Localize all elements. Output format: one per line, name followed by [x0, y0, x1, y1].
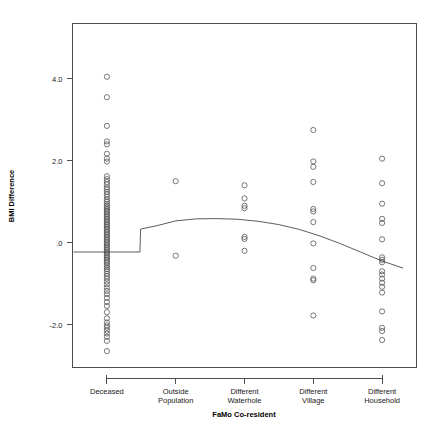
data-point: [104, 349, 109, 354]
x-tick-label: Population: [158, 396, 193, 405]
data-point: [380, 290, 385, 295]
data-point: [311, 220, 316, 225]
y-axis-title: BMI Difference: [7, 170, 16, 223]
x-tick-label: Village: [302, 396, 324, 405]
data-point: [380, 309, 385, 314]
data-point: [380, 328, 385, 333]
data-point: [311, 241, 316, 246]
x-axis: DeceasedOutsidePopulationDifferentWaterh…: [90, 375, 400, 405]
data-point: [104, 310, 109, 315]
x-axis-title: FaMo Co-resident: [212, 410, 276, 419]
data-points-layer: [104, 74, 384, 354]
data-point: [173, 179, 178, 184]
data-point: [380, 337, 385, 342]
data-point: [242, 248, 247, 253]
data-point: [242, 183, 247, 188]
data-point: [380, 156, 385, 161]
data-point: [311, 179, 316, 184]
chart-container: 4.02.0.0-2.0 DeceasedOutsidePopulationDi…: [0, 0, 441, 443]
scatter-plot-svg: 4.02.0.0-2.0 DeceasedOutsidePopulationDi…: [0, 0, 441, 443]
x-tick-label: Deceased: [90, 387, 124, 396]
data-point: [311, 313, 316, 318]
data-point: [311, 265, 316, 270]
data-point: [380, 201, 385, 206]
y-tick-label: 4.0: [52, 75, 62, 84]
data-point: [380, 181, 385, 186]
data-point: [104, 123, 109, 128]
x-tick-label: Waterhole: [228, 396, 262, 405]
x-tick-label: Different: [230, 387, 259, 396]
y-tick-label: 2.0: [52, 157, 62, 166]
x-tick-label: Different: [368, 387, 397, 396]
data-point: [104, 74, 109, 79]
fitted-trend-line: [74, 219, 403, 268]
data-point: [311, 159, 316, 164]
data-point: [242, 196, 247, 201]
y-axis: 4.02.0.0-2.0: [50, 75, 73, 330]
y-tick-label: -2.0: [50, 321, 63, 330]
data-point: [311, 127, 316, 132]
data-point: [104, 95, 109, 100]
x-tick-label: Different: [299, 387, 328, 396]
data-point: [380, 237, 385, 242]
data-point: [173, 253, 178, 258]
x-tick-label: Household: [364, 396, 400, 405]
data-point: [311, 164, 316, 169]
data-point: [104, 151, 109, 156]
x-tick-label: Outside: [163, 387, 189, 396]
y-tick-label: .0: [56, 239, 62, 248]
